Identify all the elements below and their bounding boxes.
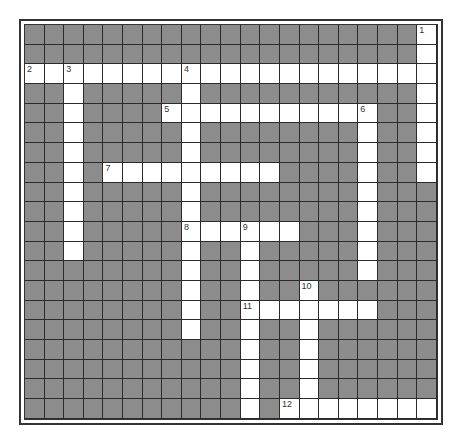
answer-cell[interactable] [280, 301, 300, 321]
answer-cell[interactable] [358, 202, 378, 222]
answer-cell[interactable] [182, 163, 202, 183]
answer-cell[interactable]: 10 [300, 281, 320, 301]
answer-cell[interactable] [241, 163, 261, 183]
answer-cell[interactable] [64, 84, 84, 104]
answer-cell[interactable] [398, 399, 418, 419]
answer-cell[interactable] [143, 163, 163, 183]
answer-cell[interactable] [260, 64, 280, 84]
answer-cell[interactable] [358, 143, 378, 163]
answer-cell[interactable] [241, 340, 261, 360]
answer-cell[interactable]: 3 [64, 64, 84, 84]
answer-cell[interactable]: 7 [103, 163, 123, 183]
answer-cell[interactable]: 5 [162, 104, 182, 124]
answer-cell[interactable] [221, 104, 241, 124]
answer-cell[interactable] [241, 399, 261, 419]
answer-cell[interactable] [241, 360, 261, 380]
answer-cell[interactable] [417, 84, 437, 104]
answer-cell[interactable] [64, 163, 84, 183]
answer-cell[interactable]: 8 [182, 222, 202, 242]
answer-cell[interactable] [221, 163, 241, 183]
answer-cell[interactable] [417, 104, 437, 124]
answer-cell[interactable]: 4 [182, 64, 202, 84]
answer-cell[interactable] [260, 222, 280, 242]
answer-cell[interactable] [300, 360, 320, 380]
answer-cell[interactable] [417, 163, 437, 183]
answer-cell[interactable] [358, 399, 378, 419]
answer-cell[interactable] [417, 64, 437, 84]
answer-cell[interactable] [339, 301, 359, 321]
answer-cell[interactable] [201, 64, 221, 84]
answer-cell[interactable] [182, 301, 202, 321]
answer-cell[interactable] [182, 202, 202, 222]
answer-cell[interactable] [182, 123, 202, 143]
answer-cell[interactable] [417, 399, 437, 419]
answer-cell[interactable] [339, 104, 359, 124]
answer-cell[interactable] [241, 261, 261, 281]
answer-cell[interactable]: 2 [25, 64, 45, 84]
answer-cell[interactable] [241, 242, 261, 262]
answer-cell[interactable] [339, 399, 359, 419]
answer-cell[interactable] [64, 242, 84, 262]
answer-cell[interactable] [182, 143, 202, 163]
answer-cell[interactable] [358, 242, 378, 262]
answer-cell[interactable] [339, 64, 359, 84]
answer-cell[interactable] [182, 104, 202, 124]
answer-cell[interactable] [201, 222, 221, 242]
answer-cell[interactable] [241, 104, 261, 124]
answer-cell[interactable] [398, 64, 418, 84]
answer-cell[interactable] [300, 64, 320, 84]
answer-cell[interactable] [319, 64, 339, 84]
answer-cell[interactable] [358, 163, 378, 183]
answer-cell[interactable] [221, 64, 241, 84]
answer-cell[interactable] [378, 64, 398, 84]
answer-cell[interactable] [64, 202, 84, 222]
answer-cell[interactable] [260, 163, 280, 183]
answer-cell[interactable] [182, 183, 202, 203]
answer-cell[interactable] [123, 163, 143, 183]
answer-cell[interactable] [300, 379, 320, 399]
answer-cell[interactable] [84, 64, 104, 84]
answer-cell[interactable] [64, 222, 84, 242]
answer-cell[interactable] [319, 399, 339, 419]
answer-cell[interactable] [201, 163, 221, 183]
answer-cell[interactable] [182, 281, 202, 301]
answer-cell[interactable]: 9 [241, 222, 261, 242]
answer-cell[interactable]: 12 [280, 399, 300, 419]
answer-cell[interactable] [64, 143, 84, 163]
answer-cell[interactable] [260, 301, 280, 321]
answer-cell[interactable] [182, 84, 202, 104]
answer-cell[interactable] [358, 64, 378, 84]
answer-cell[interactable] [300, 301, 320, 321]
answer-cell[interactable] [182, 320, 202, 340]
answer-cell[interactable] [143, 64, 163, 84]
answer-cell[interactable]: 6 [358, 104, 378, 124]
answer-cell[interactable] [280, 64, 300, 84]
answer-cell[interactable] [260, 104, 280, 124]
answer-cell[interactable] [378, 399, 398, 419]
answer-cell[interactable] [241, 379, 261, 399]
answer-cell[interactable] [45, 64, 65, 84]
answer-cell[interactable] [241, 64, 261, 84]
answer-cell[interactable] [221, 222, 241, 242]
answer-cell[interactable] [182, 242, 202, 262]
answer-cell[interactable] [64, 104, 84, 124]
answer-cell[interactable] [358, 222, 378, 242]
answer-cell[interactable] [300, 320, 320, 340]
answer-cell[interactable] [358, 261, 378, 281]
answer-cell[interactable] [123, 64, 143, 84]
answer-cell[interactable] [162, 64, 182, 84]
answer-cell[interactable] [300, 340, 320, 360]
answer-cell[interactable]: 1 [417, 25, 437, 45]
answer-cell[interactable] [280, 222, 300, 242]
answer-cell[interactable] [358, 301, 378, 321]
answer-cell[interactable] [417, 123, 437, 143]
answer-cell[interactable] [103, 64, 123, 84]
answer-cell[interactable] [319, 104, 339, 124]
answer-cell[interactable] [417, 45, 437, 65]
answer-cell[interactable] [241, 320, 261, 340]
answer-cell[interactable] [300, 399, 320, 419]
answer-cell[interactable] [64, 123, 84, 143]
answer-cell[interactable] [319, 301, 339, 321]
answer-cell[interactable]: 11 [241, 301, 261, 321]
answer-cell[interactable] [358, 183, 378, 203]
